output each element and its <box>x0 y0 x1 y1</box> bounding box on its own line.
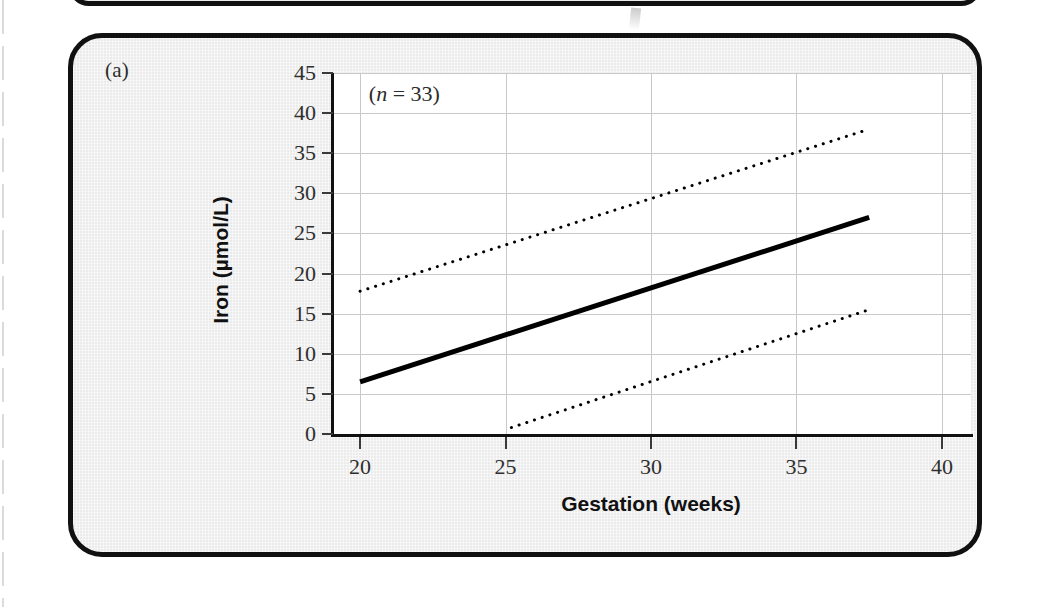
plot-area: (n = 33) <box>331 73 971 434</box>
chart-data-layer <box>331 73 971 434</box>
y-tick-label-15: 15 <box>294 301 316 327</box>
previous-figure-panel-sliver <box>68 0 982 6</box>
x-tick-40 <box>941 437 943 449</box>
y-tick-30 <box>322 192 333 194</box>
x-tick-label-40: 40 <box>931 454 953 480</box>
y-tick-label-0: 0 <box>305 421 316 447</box>
x-tick-35 <box>795 437 797 449</box>
y-tick-label-5: 5 <box>305 381 316 407</box>
y-tick-25 <box>322 232 333 234</box>
scan-artifact-left-edge <box>2 0 4 607</box>
scan-artifact-mark <box>629 8 641 31</box>
x-tick-label-30: 30 <box>640 454 662 480</box>
y-axis-line <box>331 73 334 434</box>
annotation-value: = 33) <box>387 81 440 106</box>
y-axis-title: Iron (µmol/L) <box>209 130 233 390</box>
y-tick-label-30: 30 <box>294 180 316 206</box>
figure-panel-a: (a) Iron (µmol/L) (n = 33) 0510152025303… <box>68 33 982 557</box>
y-tick-label-10: 10 <box>294 341 316 367</box>
series-line-upper-95-confidence-limit <box>360 129 869 291</box>
x-tick-label-20: 20 <box>349 454 371 480</box>
y-tick-5 <box>322 393 333 395</box>
y-tick-label-45: 45 <box>294 60 316 86</box>
y-tick-15 <box>322 313 333 315</box>
x-axis-line <box>331 434 973 437</box>
y-tick-40 <box>322 112 333 114</box>
x-tick-label-25: 25 <box>495 454 517 480</box>
y-tick-20 <box>322 273 333 275</box>
chart-container: Iron (µmol/L) (n = 33) 05101520253035404… <box>195 68 925 528</box>
x-tick-30 <box>650 437 652 449</box>
y-tick-45 <box>322 72 333 74</box>
y-tick-35 <box>322 152 333 154</box>
y-tick-10 <box>322 353 333 355</box>
x-tick-20 <box>359 437 361 449</box>
x-tick-label-35: 35 <box>785 454 807 480</box>
series-line-regression-line <box>360 217 869 381</box>
x-tick-25 <box>505 437 507 449</box>
series-line-lower-95-confidence-limit <box>511 310 869 428</box>
sample-size-annotation: (n = 33) <box>369 81 440 107</box>
y-tick-label-40: 40 <box>294 100 316 126</box>
annotation-n-symbol: n <box>376 81 387 106</box>
y-tick-label-35: 35 <box>294 140 316 166</box>
panel-label: (a) <box>105 58 129 83</box>
y-tick-0 <box>322 433 333 435</box>
y-tick-label-20: 20 <box>294 261 316 287</box>
y-tick-label-25: 25 <box>294 220 316 246</box>
x-axis-title: Gestation (weeks) <box>331 492 971 516</box>
